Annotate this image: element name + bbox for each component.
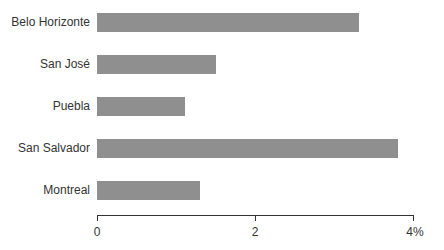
bar [97,181,200,200]
category-label: Puebla [53,99,90,113]
category-label: Belo Horizonte [11,15,90,29]
category-label: San José [40,57,90,71]
bar [97,55,216,74]
category-label: San Salvador [18,141,90,155]
x-tick-label: 2 [252,225,259,239]
bar [97,97,185,116]
x-tick-mark [97,215,98,221]
x-tick-label: 4% [406,225,423,239]
category-label: Montreal [43,183,90,197]
x-tick-mark [413,215,414,221]
x-tick-mark [255,215,256,221]
horizontal-bar-chart: Belo HorizonteSan JoséPueblaSan Salvador… [0,0,444,250]
bar [97,139,398,158]
x-tick-label: 0 [94,225,101,239]
bar [97,13,359,32]
